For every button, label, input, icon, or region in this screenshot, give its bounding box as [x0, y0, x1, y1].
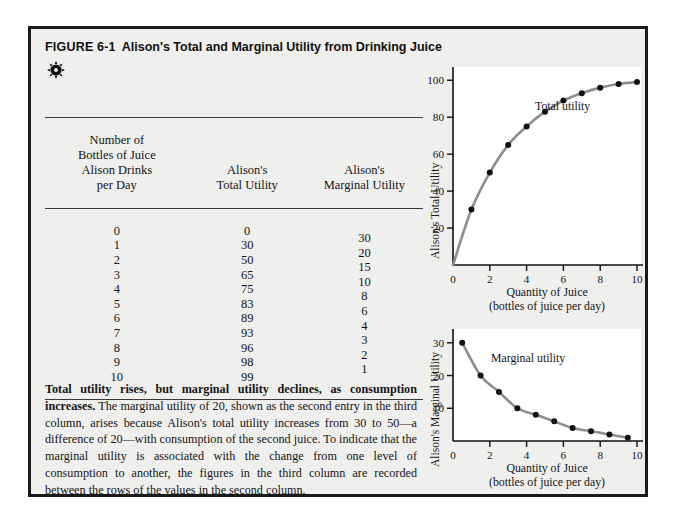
- x-axis-label: Quantity of Juice (bottles of juice per …: [453, 461, 641, 490]
- table-row: 36510: [45, 268, 423, 283]
- svg-text:8: 8: [597, 449, 603, 461]
- svg-text:100: 100: [427, 74, 444, 86]
- svg-text:80: 80: [433, 111, 445, 123]
- header-line: per Day: [45, 178, 189, 193]
- caption-body: The marginal utility of 20, shown as the…: [45, 399, 417, 497]
- svg-text:60: 60: [433, 148, 445, 160]
- cell-quantity: 6: [45, 311, 189, 326]
- page-title: Alison's Total and Marginal Utility from…: [122, 40, 442, 54]
- cell-total-utility: 98: [189, 355, 306, 370]
- cell-total-utility: 83: [189, 297, 306, 312]
- cell-marginal-utility: 4: [306, 311, 423, 326]
- svg-text:2: 2: [487, 449, 493, 461]
- table-row: 8962: [45, 341, 423, 356]
- y-axis-label: Alison's Total Utility: [429, 163, 441, 259]
- svg-text:4: 4: [524, 449, 530, 461]
- column-header-marginal-utility: Alison's Marginal Utility: [306, 133, 423, 194]
- cell-marginal-utility: 2: [306, 341, 423, 356]
- header-line: Alison Drinks: [45, 163, 189, 178]
- table-row: 5836: [45, 297, 423, 312]
- cell-marginal-utility: 30: [306, 224, 423, 239]
- cell-marginal-utility: 15: [306, 253, 423, 268]
- table-row: 0030: [45, 224, 423, 239]
- table-row: 4758: [45, 282, 423, 297]
- figure-number: FIGURE 6-1: [45, 40, 116, 54]
- svg-text:10: 10: [631, 273, 643, 285]
- cell-quantity: 8: [45, 341, 189, 356]
- cell-quantity: 1: [45, 238, 189, 253]
- cell-total-utility: 65: [189, 268, 306, 283]
- svg-text:10: 10: [631, 449, 643, 461]
- svg-text:4: 4: [524, 273, 530, 285]
- table-row: 6894: [45, 311, 423, 326]
- cell-marginal-utility: 1: [306, 355, 423, 370]
- svg-text:8: 8: [597, 273, 603, 285]
- cell-marginal-utility: 6: [306, 297, 423, 312]
- cell-quantity: 3: [45, 268, 189, 283]
- header-line: Bottles of Juice: [45, 148, 189, 163]
- cell-quantity: 0: [45, 224, 189, 239]
- svg-text:6: 6: [561, 273, 567, 285]
- svg-text:30: 30: [433, 337, 445, 349]
- figure-container: FIGURE 6-1Alison's Total and Marginal Ut…: [28, 26, 648, 497]
- cell-total-utility: 93: [189, 326, 306, 341]
- figure-caption: Total utility rises, but marginal utilit…: [45, 381, 417, 499]
- cell-marginal-utility: 8: [306, 282, 423, 297]
- header-line: Alison's: [306, 163, 423, 178]
- svg-text:2: 2: [487, 273, 493, 285]
- column-header-total-utility: Alison's Total Utility: [189, 133, 306, 194]
- x-axis-label-sub: (bottles of juice per day): [453, 475, 641, 489]
- column-header-quantity: Number of Bottles of Juice Alison Drinks…: [45, 133, 189, 194]
- cell-quantity: 2: [45, 253, 189, 268]
- x-axis-label-main: Quantity of Juice: [453, 285, 641, 299]
- cell-total-utility: 89: [189, 311, 306, 326]
- chart-total-utility: 204060801000246810 Alison's Total Utilit…: [423, 63, 645, 319]
- cell-total-utility: 50: [189, 253, 306, 268]
- cell-quantity: 4: [45, 282, 189, 297]
- table-row: 13020: [45, 238, 423, 253]
- table-row: 7933: [45, 326, 423, 341]
- cell-quantity: 9: [45, 355, 189, 370]
- x-axis-label-sub: (bottles of juice per day): [453, 299, 641, 313]
- table-header: Number of Bottles of Juice Alison Drinks…: [45, 118, 423, 208]
- cell-total-utility: 96: [189, 341, 306, 356]
- cell-quantity: 7: [45, 326, 189, 341]
- svg-text:0: 0: [450, 273, 456, 285]
- cell-marginal-utility: 3: [306, 326, 423, 341]
- header-line: Number of: [45, 133, 189, 148]
- table-body: 0030130202501536510475858366894793389629…: [45, 209, 423, 399]
- utility-table: Number of Bottles of Juice Alison Drinks…: [45, 117, 423, 400]
- cell-total-utility: 0: [189, 224, 306, 239]
- series-label-marginal-utility: Marginal utility: [491, 351, 565, 366]
- cell-total-utility: 75: [189, 282, 306, 297]
- header-line: Alison's: [189, 163, 306, 178]
- header-line: Total Utility: [189, 178, 306, 193]
- cell-marginal-utility: 20: [306, 238, 423, 253]
- cell-marginal-utility: 10: [306, 268, 423, 283]
- cell-total-utility: 30: [189, 238, 306, 253]
- chart-marginal-utility: 1020300246810 Alison's Marginal Utility …: [423, 325, 645, 493]
- cell-quantity: 5: [45, 297, 189, 312]
- svg-text:6: 6: [561, 449, 567, 461]
- series-label-total-utility: Total utility: [535, 99, 590, 114]
- y-axis-label: Alison's Marginal Utility: [429, 352, 441, 467]
- table-row: 9981: [45, 355, 423, 370]
- table-row: 25015: [45, 253, 423, 268]
- sun-icon: [45, 59, 67, 81]
- figure-title-line: FIGURE 6-1Alison's Total and Marginal Ut…: [45, 37, 625, 55]
- x-axis-label: Quantity of Juice (bottles of juice per …: [453, 285, 641, 314]
- total-utility-plot: 204060801000246810: [423, 63, 645, 319]
- x-axis-label-main: Quantity of Juice: [453, 461, 641, 475]
- header-line: Marginal Utility: [306, 178, 423, 193]
- svg-text:0: 0: [450, 449, 456, 461]
